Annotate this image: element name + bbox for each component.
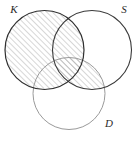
venn-diagram-canvas: K S D [0,0,140,141]
venn-diagram-figure: K S D [0,0,140,141]
set-label-d: D [104,117,113,129]
set-label-k: K [9,3,18,15]
set-label-s: S [121,3,127,15]
